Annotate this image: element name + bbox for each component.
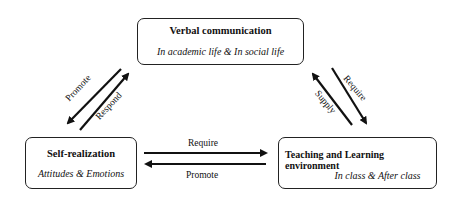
node-verbal-communication: Verbal communication In academic life & … (137, 18, 304, 65)
node-self-realization: Self-realization Attitudes & Emotions (25, 137, 137, 189)
node-title: Teaching and Learning environment (285, 149, 436, 171)
edge-label-require-bottom: Require (188, 138, 218, 148)
node-title: Self-realization (26, 148, 136, 159)
node-subtitle: In academic life & In social life (138, 46, 303, 57)
node-title: Verbal communication (138, 25, 303, 36)
node-subtitle: In class & After class (319, 170, 436, 181)
node-subtitle: Attitudes & Emotions (26, 168, 136, 179)
node-teaching-learning-environment: Teaching and Learning environment In cla… (278, 137, 437, 189)
edge-label-promote-bottom: Promote (186, 170, 218, 180)
